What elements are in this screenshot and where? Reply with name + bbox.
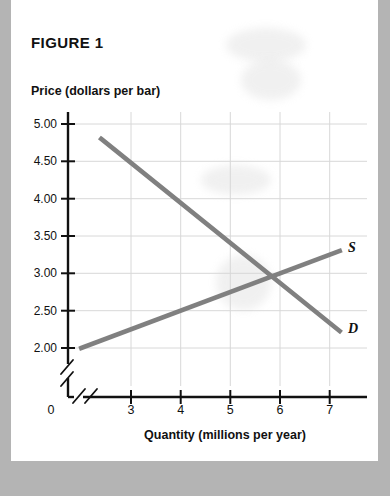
y-tick-label: 3.00	[11, 267, 57, 279]
x-axis-title: Quantity (millions per year)	[85, 428, 365, 442]
x-tick-label: 7	[318, 404, 342, 417]
y-tick-label: 2.50	[11, 305, 57, 317]
y-tick-label: 3.50	[11, 230, 57, 242]
y-tick-label: 2.00	[11, 342, 57, 354]
x-axis-origin-label: 0	[39, 404, 63, 417]
y-tick-label: 4.50	[11, 155, 57, 167]
supply-demand-chart	[11, 0, 378, 461]
y-tick-label: 4.00	[11, 193, 57, 205]
x-tick-label: 6	[268, 404, 292, 417]
figure-page: FIGURE 1 Price (dollars per bar)	[11, 0, 378, 461]
x-tick-label: 3	[119, 404, 143, 417]
demand-curve-label: D	[348, 322, 358, 336]
vertical-gridlines	[131, 112, 330, 386]
supply-curve-label: S	[348, 241, 356, 255]
x-tick-label: 4	[169, 404, 193, 417]
y-tick-label: 5.00	[11, 118, 57, 130]
demand-curve	[101, 139, 340, 331]
x-tick-label: 5	[218, 404, 242, 417]
